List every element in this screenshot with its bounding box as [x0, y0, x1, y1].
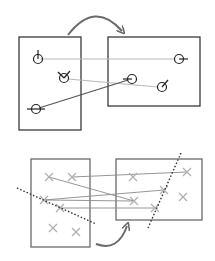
left-image-box — [31, 159, 90, 247]
diagram-canvas — [0, 0, 215, 261]
bottom-panel-matches — [17, 153, 202, 247]
curved-arrow-icon — [96, 226, 127, 246]
right-image-box — [116, 159, 202, 220]
feature-matching-diagram — [0, 0, 215, 261]
curved-arrow-icon — [68, 16, 122, 35]
left-image-box — [19, 37, 81, 130]
right-image-box — [108, 37, 200, 106]
top-panel-keypoints — [19, 16, 200, 130]
